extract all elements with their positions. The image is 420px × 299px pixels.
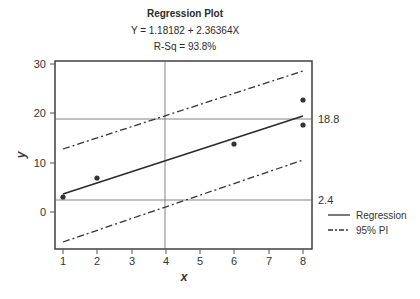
x-tick-8: 8	[300, 255, 306, 267]
ref-label-upper: 18.8	[318, 113, 339, 125]
data-point	[300, 122, 305, 127]
legend-pi-label: 95% PI	[356, 225, 388, 236]
data-point	[300, 97, 305, 102]
regression-plot: 30 20 10 0 1 2 3 4 5 6 7 8 x y 18.8 2.4	[0, 0, 420, 299]
x-tick-3: 3	[129, 255, 135, 267]
y-tick-30: 30	[34, 58, 46, 70]
x-tick-1: 1	[60, 255, 66, 267]
y-tick-0: 0	[40, 206, 46, 218]
legend-regression-label: Regression	[356, 210, 407, 221]
x-tick-4: 4	[163, 255, 169, 267]
x-tick-5: 5	[197, 255, 203, 267]
x-axis	[63, 249, 303, 254]
legend: Regression 95% PI	[328, 210, 407, 236]
ref-label-lower: 2.4	[318, 194, 333, 206]
y-axis-title: y	[14, 150, 28, 159]
y-tick-20: 20	[34, 107, 46, 119]
x-axis-title: x	[180, 270, 189, 284]
y-tick-10: 10	[34, 157, 46, 169]
x-tick-6: 6	[231, 255, 237, 267]
x-tick-7: 7	[266, 255, 272, 267]
y-axis	[50, 64, 55, 212]
data-point	[94, 175, 99, 180]
data-point	[60, 194, 65, 199]
x-tick-2: 2	[94, 255, 100, 267]
data-point	[231, 141, 236, 146]
